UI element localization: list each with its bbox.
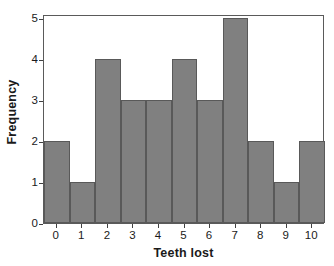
- bar: [197, 100, 223, 223]
- bar: [223, 18, 249, 223]
- y-axis-tick-mark: [39, 60, 43, 61]
- bar: [121, 100, 147, 223]
- y-axis-tick-label: 4: [22, 54, 38, 66]
- x-axis-tick-label: 4: [145, 229, 171, 243]
- x-axis-tick-label: 6: [196, 229, 222, 243]
- y-axis-tick-label: 2: [22, 136, 38, 148]
- histogram-figure: Frequency 012345 012345678910 Teeth lost: [0, 0, 334, 266]
- x-axis-tick-mark: [132, 224, 133, 228]
- x-axis-tick-label: 3: [119, 229, 145, 243]
- y-axis-tick-mark: [39, 101, 43, 102]
- y-axis-tick-mark: [39, 19, 43, 20]
- x-axis-tick-mark: [184, 224, 185, 228]
- y-axis-tick-label: 5: [22, 13, 38, 25]
- x-axis-tick-mark: [311, 224, 312, 228]
- bar: [299, 141, 325, 223]
- bar: [95, 59, 121, 223]
- y-axis-tick-label: 3: [22, 95, 38, 107]
- x-axis-tick-label: 1: [68, 229, 94, 243]
- bar: [70, 182, 96, 223]
- x-axis-tick-label: 2: [94, 229, 120, 243]
- x-axis-tick-label: 5: [171, 229, 197, 243]
- y-axis-tick-mark: [39, 224, 43, 225]
- y-axis-title: Frequency: [0, 0, 22, 224]
- y-axis-tick-label: 1: [22, 177, 38, 189]
- y-axis-tick-labels: 012345: [22, 0, 38, 266]
- x-axis-tick-mark: [158, 224, 159, 228]
- y-axis-title-text: Frequency: [4, 79, 18, 144]
- x-axis-tick-mark: [107, 224, 108, 228]
- x-axis-tick-mark: [209, 224, 210, 228]
- x-axis-tick-label: 7: [222, 229, 248, 243]
- bar: [146, 100, 172, 223]
- y-axis-tick-mark: [39, 142, 43, 143]
- x-axis-tick-mark: [260, 224, 261, 228]
- bar: [274, 182, 300, 223]
- y-axis-tick-mark: [39, 183, 43, 184]
- bar: [44, 141, 70, 223]
- bar: [248, 141, 274, 223]
- x-axis-tick-mark: [235, 224, 236, 228]
- plot-area: [43, 15, 324, 224]
- x-axis-tick-label: 10: [298, 229, 324, 243]
- x-axis-tick-label: 9: [273, 229, 299, 243]
- y-axis-tick-label: 0: [22, 218, 38, 230]
- x-axis-tick-mark: [56, 224, 57, 228]
- x-axis-tick-label: 8: [247, 229, 273, 243]
- x-axis-tick-labels: 012345678910: [43, 229, 324, 245]
- x-axis-title: Teeth lost: [43, 246, 324, 260]
- x-axis-tick-mark: [286, 224, 287, 228]
- x-axis-tick-label: 0: [43, 229, 69, 243]
- bar: [172, 59, 198, 223]
- bars-container: [44, 16, 323, 223]
- x-axis-tick-mark: [81, 224, 82, 228]
